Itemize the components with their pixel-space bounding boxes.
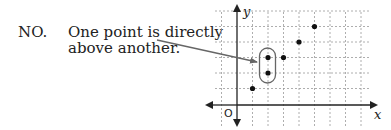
data-point (312, 24, 317, 29)
highlight-loop (260, 48, 276, 83)
y-axis-label: y (242, 4, 251, 19)
data-point (250, 86, 255, 91)
data-point (265, 70, 270, 75)
data-point (281, 55, 286, 60)
coordinate-plane: y x O (0, 0, 391, 130)
origin-label: O (224, 107, 233, 120)
data-point (265, 55, 270, 60)
pointer-arrow (157, 40, 257, 62)
grid (215, 11, 371, 126)
data-point (296, 39, 301, 44)
x-axis-label: x (374, 107, 382, 122)
